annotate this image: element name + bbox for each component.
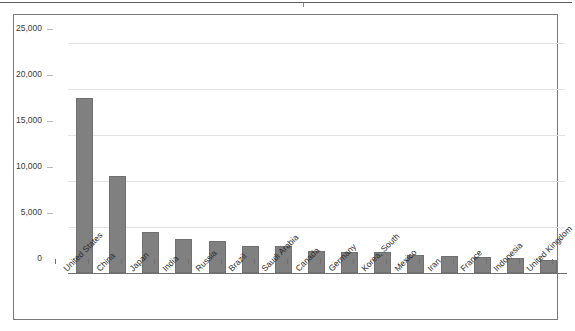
x-tick-mark xyxy=(419,259,420,264)
y-axis-tick-label: 20,000 xyxy=(16,70,42,79)
y-tick-mark xyxy=(47,213,53,214)
y-axis-tick-label: 0 xyxy=(37,254,42,263)
x-tick-mark xyxy=(353,259,354,264)
x-tick-mark xyxy=(453,259,454,264)
x-tick-mark xyxy=(287,259,288,264)
x-tick-mark xyxy=(320,259,321,264)
x-tick-mark xyxy=(188,259,189,264)
y-tick-mark xyxy=(47,75,53,76)
bar-chart-frame: 25,00020,00015,00010,0005,0000 United St… xyxy=(13,14,558,320)
x-tick-mark xyxy=(486,259,487,264)
x-tick-mark xyxy=(386,259,387,264)
x-tick-mark xyxy=(121,259,122,264)
bar xyxy=(175,239,192,274)
page-top-rule-tick xyxy=(303,3,304,7)
x-tick-mark xyxy=(55,259,56,264)
plot-area xyxy=(68,43,565,273)
y-tick-mark xyxy=(47,167,53,168)
y-tick-mark xyxy=(47,121,53,122)
x-tick-mark xyxy=(254,259,255,264)
page-top-rule xyxy=(0,2,572,3)
y-axis-tick-label: 25,000 xyxy=(16,24,42,33)
y-axis-tick-label: 15,000 xyxy=(16,116,42,125)
x-tick-mark xyxy=(88,259,89,264)
x-tick-mark xyxy=(519,259,520,264)
gridline xyxy=(68,181,565,182)
y-axis-tick-label: 5,000 xyxy=(21,208,42,217)
gridline xyxy=(68,43,565,44)
gridline xyxy=(68,89,565,90)
y-tick-mark xyxy=(47,29,53,30)
x-tick-mark xyxy=(552,259,553,264)
gridline xyxy=(68,135,565,136)
x-tick-mark xyxy=(154,259,155,264)
x-tick-mark xyxy=(221,259,222,264)
axis-baseline xyxy=(68,273,567,274)
gridline xyxy=(68,227,565,228)
bar xyxy=(441,256,458,273)
y-axis-tick-label: 10,000 xyxy=(16,162,42,171)
